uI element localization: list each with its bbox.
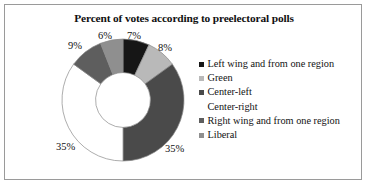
legend-item-label: Right wing and from one region (208, 114, 340, 128)
legend-swatch-icon (199, 104, 204, 109)
slice-label-liberal: 6% (98, 30, 112, 41)
legend-item[interactable]: Liberal (199, 128, 357, 142)
slice-label-center-left: 35% (165, 143, 184, 154)
slice-label-center-right: 35% (56, 141, 75, 152)
legend-swatch-icon (199, 62, 204, 67)
legend-item-label: Center-right (208, 100, 258, 114)
slice-label-green: 8% (158, 42, 172, 53)
legend-item[interactable]: Left wing and from one region (199, 57, 357, 71)
slice-label-left-wing: 7% (127, 30, 141, 41)
legend-item-label: Liberal (208, 128, 238, 142)
legend-swatch-icon (199, 133, 204, 138)
legend-swatch-icon (199, 118, 204, 123)
legend-item[interactable]: Center-right (199, 100, 357, 114)
chart-legend: Left wing and from one regionGreenCenter… (199, 57, 357, 142)
legend-item[interactable]: Center-left (199, 85, 357, 99)
legend-item-label: Left wing and from one region (208, 57, 335, 71)
slice-label-right-wing: 9% (68, 40, 82, 51)
legend-item[interactable]: Right wing and from one region (199, 114, 357, 128)
legend-swatch-icon (199, 90, 204, 95)
legend-swatch-icon (199, 76, 204, 81)
legend-item-label: Center-left (208, 85, 252, 99)
legend-item-label: Green (208, 71, 233, 85)
legend-item[interactable]: Green (199, 71, 357, 85)
